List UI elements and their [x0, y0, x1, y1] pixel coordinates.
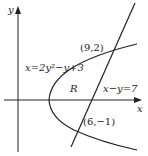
x-axis: [4, 97, 142, 103]
point-lower-label: (6,−1): [83, 116, 115, 127]
line-label: x−y=7: [103, 83, 138, 94]
x-axis-label: x: [137, 103, 143, 114]
y-axis-label: y: [7, 4, 14, 15]
y-axis-arrow-icon: [15, 6, 21, 14]
parabola-label: x=2y²−y+3: [25, 62, 84, 73]
region-label: R: [69, 83, 78, 94]
point-upper-label: (9,2): [80, 42, 104, 53]
region-diagram: y x (9,2) x=2y²−y+3 R x−y=7 (6,−1): [0, 0, 148, 156]
y-axis: [15, 6, 21, 152]
